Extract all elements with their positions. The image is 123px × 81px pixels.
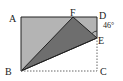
label-b: B [5,66,12,77]
angle-label: 46° [103,21,114,30]
geometry-diagram: A F D 46° E B C [0,0,123,81]
label-d: D [99,10,106,21]
label-c: C [100,66,107,77]
label-f: F [70,7,76,18]
label-e: E [98,35,104,46]
label-a: A [9,13,17,24]
